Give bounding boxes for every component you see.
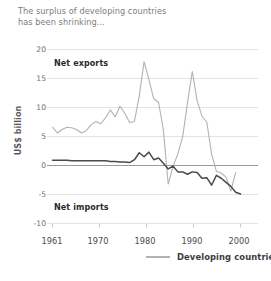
series-line-developing-countries [53, 62, 236, 191]
x-axis-tick-marks [53, 224, 241, 228]
legend-item-label: Developing countries [177, 252, 271, 262]
chart-legend: Developing countries [146, 252, 271, 262]
legend-line-swatch [146, 256, 170, 258]
chart-container: The surplus of developing countries has … [0, 0, 271, 281]
gridlines [47, 50, 258, 224]
plot-area [0, 0, 271, 281]
